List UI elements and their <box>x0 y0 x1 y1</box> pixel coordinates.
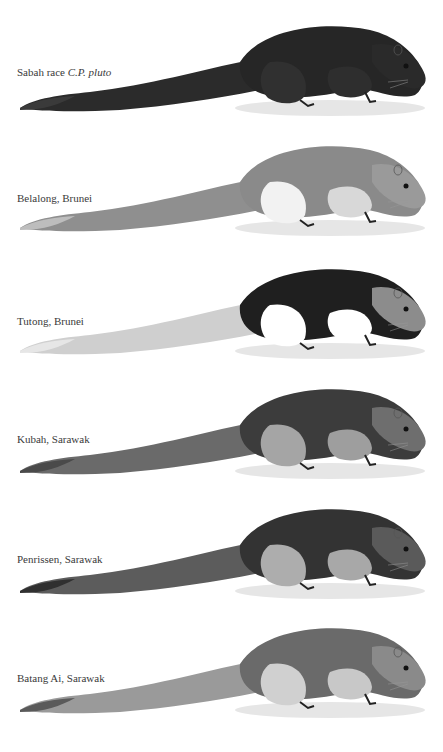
squirrel-illustration <box>0 602 443 727</box>
locality-label: Belalong, Brunei <box>17 192 92 204</box>
locality-label: Penrissen, Sarawak <box>17 553 103 565</box>
squirrel-illustration <box>0 363 443 488</box>
locality-label: Kubah, Sarawak <box>17 433 90 445</box>
squirrel-panel-1: Sabah race C.P. pluto <box>0 0 443 125</box>
squirrel-illustration <box>0 243 443 368</box>
squirrel-panel-3: Tutong, Brunei <box>0 243 443 368</box>
locality-label: Sabah race C.P. pluto <box>17 66 111 78</box>
squirrel-panel-2: Belalong, Brunei <box>0 120 443 245</box>
squirrel-illustration <box>0 0 443 125</box>
squirrel-illustration <box>0 120 443 245</box>
squirrel-panel-5: Penrissen, Sarawak <box>0 483 443 608</box>
locality-label: Tutong, Brunei <box>17 315 84 327</box>
locality-label: Batang Ai, Sarawak <box>17 672 105 684</box>
squirrel-panel-6: Batang Ai, Sarawak <box>0 602 443 727</box>
squirrel-illustration <box>0 483 443 608</box>
squirrel-panel-4: Kubah, Sarawak <box>0 363 443 488</box>
